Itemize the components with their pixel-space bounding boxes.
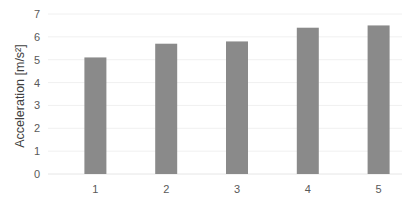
bar-chart: 01234567 12345 Acceleration [m/s²] bbox=[0, 0, 415, 204]
y-tick-label: 7 bbox=[34, 8, 40, 20]
bar-3 bbox=[226, 41, 248, 174]
y-axis-title: Acceleration [m/s²] bbox=[13, 44, 27, 148]
x-tick-label: 4 bbox=[305, 183, 311, 195]
y-tick-label: 3 bbox=[34, 99, 40, 111]
x-axis-ticks: 12345 bbox=[92, 183, 381, 195]
x-tick-label: 3 bbox=[234, 183, 240, 195]
bar-4 bbox=[297, 28, 319, 174]
bars bbox=[84, 25, 389, 174]
y-tick-label: 1 bbox=[34, 145, 40, 157]
y-axis-ticks: 01234567 bbox=[34, 8, 40, 180]
y-tick-label: 4 bbox=[34, 77, 40, 89]
y-tick-label: 5 bbox=[34, 54, 40, 66]
x-tick-label: 5 bbox=[376, 183, 382, 195]
y-tick-label: 2 bbox=[34, 122, 40, 134]
bar-2 bbox=[155, 44, 177, 174]
bar-5 bbox=[368, 25, 390, 174]
y-tick-label: 6 bbox=[34, 31, 40, 43]
x-tick-label: 1 bbox=[92, 183, 98, 195]
y-tick-label: 0 bbox=[34, 168, 40, 180]
bar-1 bbox=[84, 57, 106, 174]
x-tick-label: 2 bbox=[163, 183, 169, 195]
